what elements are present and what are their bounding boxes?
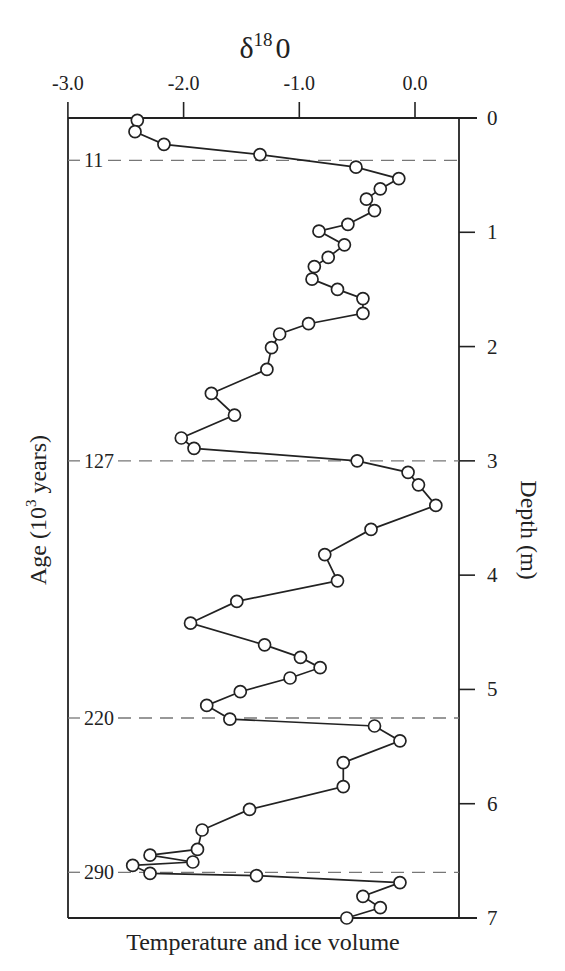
depth-axis-ticks: 01234567 bbox=[459, 106, 498, 930]
age-marker-label: 220 bbox=[84, 707, 114, 729]
data-point bbox=[365, 523, 377, 535]
data-point bbox=[322, 251, 334, 263]
age-label-pre: Age (10 bbox=[25, 507, 51, 585]
plot-frame bbox=[68, 118, 477, 918]
data-point bbox=[393, 173, 405, 185]
depth-tick-label: 1 bbox=[487, 220, 498, 244]
data-point bbox=[231, 595, 243, 607]
data-series bbox=[127, 114, 442, 924]
data-point bbox=[314, 662, 326, 674]
data-point bbox=[191, 843, 203, 855]
x-tick-label: 0.0 bbox=[403, 72, 428, 94]
data-point bbox=[254, 149, 266, 161]
age-marker-label: 11 bbox=[84, 149, 103, 171]
data-point bbox=[308, 261, 320, 273]
data-point bbox=[244, 803, 256, 815]
data-point bbox=[357, 890, 369, 902]
data-point bbox=[187, 856, 199, 868]
data-point bbox=[261, 363, 273, 375]
data-point bbox=[250, 870, 262, 882]
data-point bbox=[196, 824, 208, 836]
data-point bbox=[229, 409, 241, 421]
data-point bbox=[350, 161, 362, 173]
data-point bbox=[274, 328, 286, 340]
depth-tick-label: 3 bbox=[487, 449, 498, 473]
age-axis-label: Age (103 years) bbox=[23, 435, 51, 585]
data-point bbox=[430, 499, 442, 511]
age-marker-label: 127 bbox=[84, 450, 114, 472]
age-label-sup: 3 bbox=[23, 500, 39, 508]
data-point bbox=[369, 720, 381, 732]
data-point bbox=[175, 432, 187, 444]
depth-tick-label: 5 bbox=[487, 677, 498, 701]
data-point bbox=[360, 193, 372, 205]
data-point bbox=[127, 859, 139, 871]
x-axis-label: Temperature and ice volume bbox=[126, 929, 400, 955]
data-point bbox=[266, 342, 278, 354]
depth-tick-label: 7 bbox=[487, 906, 498, 930]
data-point bbox=[338, 239, 350, 251]
depth-tick-label: 4 bbox=[487, 563, 498, 587]
data-point bbox=[337, 781, 349, 793]
data-point bbox=[234, 686, 246, 698]
data-point bbox=[188, 442, 200, 454]
depth-tick-label: 0 bbox=[487, 106, 498, 130]
data-point bbox=[224, 713, 236, 725]
data-point bbox=[331, 575, 343, 587]
data-point bbox=[129, 126, 141, 138]
title-sup: 18 bbox=[254, 29, 273, 50]
data-point bbox=[369, 205, 381, 217]
data-point bbox=[185, 617, 197, 629]
depth-tick-label: 6 bbox=[487, 792, 498, 816]
data-point bbox=[294, 651, 306, 663]
data-point bbox=[342, 218, 354, 230]
data-point bbox=[374, 183, 386, 195]
x-tick-label: -1.0 bbox=[283, 72, 315, 94]
data-point bbox=[357, 293, 369, 305]
data-point bbox=[303, 318, 315, 330]
age-label-post: years) bbox=[25, 435, 51, 500]
data-point bbox=[158, 138, 170, 150]
series-line bbox=[133, 120, 436, 918]
x-axis-ticks: -3.0-2.0-1.00.0 bbox=[52, 72, 427, 118]
data-point bbox=[331, 283, 343, 295]
data-point bbox=[394, 877, 406, 889]
data-point bbox=[337, 757, 349, 769]
data-point bbox=[144, 849, 156, 861]
d18o-depth-chart: δ180 -3.0-2.0-1.00.0 01234567 1112722029… bbox=[0, 0, 565, 971]
data-point bbox=[374, 902, 386, 914]
data-point bbox=[306, 273, 318, 285]
age-markers: 11127220290 bbox=[68, 149, 459, 883]
data-point bbox=[394, 735, 406, 747]
data-point bbox=[205, 387, 217, 399]
title-tail: 0 bbox=[276, 31, 291, 64]
depth-tick-label: 2 bbox=[487, 335, 498, 359]
x-tick-label: -3.0 bbox=[52, 72, 84, 94]
data-point bbox=[259, 639, 271, 651]
data-point bbox=[131, 114, 143, 126]
data-point bbox=[201, 699, 213, 711]
data-point bbox=[284, 672, 296, 684]
depth-axis-label: Depth (m) bbox=[516, 480, 542, 579]
data-point bbox=[402, 466, 414, 478]
chart-title: δ180 bbox=[239, 29, 290, 64]
data-point bbox=[313, 225, 325, 237]
x-tick-label: -2.0 bbox=[168, 72, 200, 94]
data-point bbox=[357, 307, 369, 319]
data-point bbox=[412, 479, 424, 491]
data-point bbox=[351, 455, 363, 467]
age-marker-label: 290 bbox=[84, 861, 114, 883]
title-base: δ bbox=[239, 31, 253, 64]
data-point bbox=[144, 867, 156, 879]
data-point bbox=[341, 912, 353, 924]
data-point bbox=[319, 549, 331, 561]
